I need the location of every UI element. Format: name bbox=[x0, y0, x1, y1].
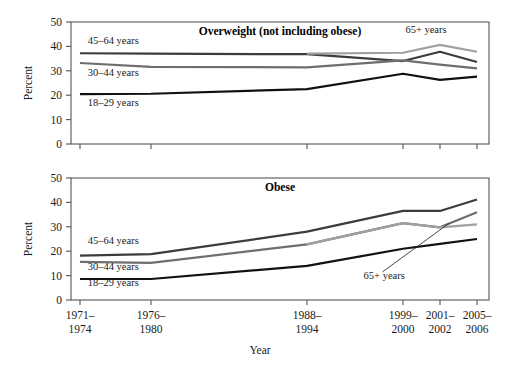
y-axis-title: Percent bbox=[22, 221, 34, 256]
y-tick-label: 0 bbox=[56, 294, 62, 306]
y-axis-title: Percent bbox=[22, 65, 34, 100]
series-annotation: 65+ years bbox=[405, 24, 446, 35]
panel-title: Overweight (not including obese) bbox=[199, 25, 362, 38]
y-tick-label: 30 bbox=[51, 221, 63, 233]
y-tick-label: 50 bbox=[51, 16, 63, 28]
y-tick-label: 50 bbox=[51, 172, 63, 184]
y-tick-label: 0 bbox=[56, 138, 62, 150]
y-tick-label: 40 bbox=[51, 40, 63, 52]
figure-container: 01020304050PercentOverweight (not includ… bbox=[0, 0, 513, 365]
age-adjusted-overweight-obesity-chart: 01020304050PercentOverweight (not includ… bbox=[0, 0, 513, 365]
x-tick-label: 2002 bbox=[429, 323, 452, 335]
series-annotation: 30–44 years bbox=[88, 261, 139, 272]
series-annotation: 45–64 years bbox=[88, 35, 139, 46]
x-tick-label: 1980 bbox=[140, 323, 163, 335]
series-annotation: 30–44 years bbox=[88, 67, 139, 78]
y-tick-label: 20 bbox=[51, 245, 63, 257]
x-tick-label: 1976– bbox=[137, 309, 166, 321]
panel-obese: 01020304050PercentObese45–64 years30–44 … bbox=[22, 172, 489, 306]
y-tick-label: 10 bbox=[51, 114, 63, 126]
x-axis-title: Year bbox=[249, 344, 270, 356]
panel-overweight: 01020304050PercentOverweight (not includ… bbox=[22, 16, 489, 150]
y-tick-label: 10 bbox=[51, 270, 63, 282]
series-annotation: 65+ years bbox=[364, 270, 405, 281]
x-tick-label: 1971– bbox=[66, 309, 95, 321]
x-tick-label: 1999– bbox=[389, 309, 418, 321]
x-tick-label: 1988– bbox=[293, 309, 322, 321]
panel-title: Obese bbox=[265, 181, 295, 193]
y-tick-label: 40 bbox=[51, 196, 63, 208]
x-tick-label: 2001– bbox=[426, 309, 455, 321]
series-annotation: 18–29 years bbox=[88, 97, 139, 108]
series-annotation: 45–64 years bbox=[88, 235, 139, 246]
series-annotation: 18–29 years bbox=[88, 277, 139, 288]
x-tick-label: 2006 bbox=[466, 323, 489, 335]
x-tick-label: 2000 bbox=[392, 323, 415, 335]
x-tick-label: 1974 bbox=[69, 323, 92, 335]
y-tick-label: 20 bbox=[51, 89, 63, 101]
x-tick-label: 1994 bbox=[296, 323, 319, 335]
y-tick-label: 30 bbox=[51, 65, 63, 77]
x-tick-label: 2005– bbox=[463, 309, 492, 321]
